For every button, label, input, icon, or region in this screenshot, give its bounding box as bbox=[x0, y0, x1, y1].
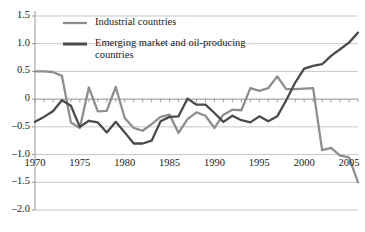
y-axis-tick-label: 1.0 bbox=[0, 37, 30, 48]
x-axis-tick-label: 1980 bbox=[105, 157, 145, 168]
y-axis-tick-label: –1.5 bbox=[0, 175, 30, 186]
y-axis-tick-label: –0.5 bbox=[0, 120, 30, 131]
x-axis-tick-label: 1990 bbox=[194, 157, 234, 168]
x-axis-tick-label: 1995 bbox=[239, 157, 279, 168]
legend-label: Emerging market and oil-producing bbox=[95, 37, 246, 49]
legend-label: countries bbox=[95, 49, 134, 61]
x-axis-tick-label: 1975 bbox=[60, 157, 100, 168]
x-axis-tick-label: 2000 bbox=[284, 157, 324, 168]
chart-figure: 1.51.00.50–0.5–1.0–1.5–2.019701975198019… bbox=[0, 0, 365, 232]
y-axis-tick-label: 0 bbox=[0, 92, 30, 103]
y-axis-tick-label: 1.5 bbox=[0, 9, 30, 20]
y-axis-tick-label: 0.5 bbox=[0, 64, 30, 75]
x-axis-tick-label: 2005 bbox=[329, 157, 365, 168]
x-axis-tick-label: 1970 bbox=[15, 157, 55, 168]
y-axis-tick-label: –2.0 bbox=[0, 203, 30, 214]
line-chart-canvas bbox=[0, 0, 365, 232]
x-axis-tick-label: 1985 bbox=[150, 157, 190, 168]
legend-label: Industrial countries bbox=[95, 16, 176, 28]
